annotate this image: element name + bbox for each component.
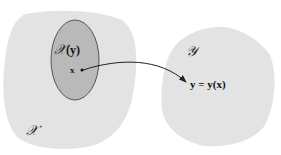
point-x-label: x [70,65,75,75]
subset-label: 𝒳(y) [54,41,80,57]
mapping-label: y = y(x) [190,78,226,91]
subset-x-of-y [51,20,99,100]
mapping-diagram: 𝒳(y) x 𝒳 𝒴 y = y(x) [0,0,281,155]
